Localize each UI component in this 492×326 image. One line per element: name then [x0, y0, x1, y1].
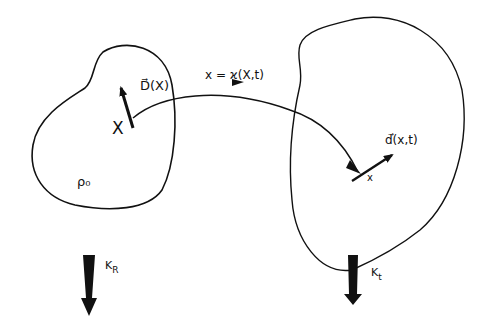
- reference-body-outline: [32, 45, 175, 208]
- diagram-canvas: [0, 0, 492, 326]
- current-body-outline: [290, 17, 464, 270]
- reference-config-label: KR: [105, 259, 118, 272]
- density-label: ρ₀: [77, 174, 90, 189]
- current-config-label-sub: t: [378, 272, 382, 282]
- reference-point-label: X: [112, 118, 124, 138]
- current-vector-label: d⃗(x,t): [385, 133, 418, 147]
- current-point-label: x: [367, 172, 373, 183]
- reference-config-arrow: [81, 255, 97, 316]
- mapping-curve: [133, 95, 358, 172]
- reference-config-label-sub: R: [112, 265, 118, 275]
- current-config-label: Kt: [371, 266, 382, 279]
- current-config-arrow: [344, 255, 362, 305]
- mapping-label: x = ϰ(X,t): [205, 68, 264, 82]
- reference-vector-label: D⃗(X): [140, 78, 169, 93]
